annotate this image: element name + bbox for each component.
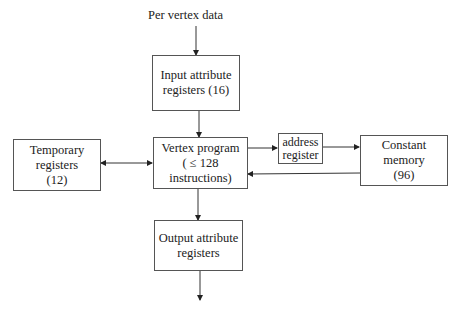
constant-memory-box: Constant memory (96): [360, 135, 448, 186]
address-register-box: address register: [278, 133, 323, 164]
box-line: registers (16): [160, 83, 231, 98]
box-line: (96): [382, 168, 426, 183]
box-line: memory: [382, 153, 426, 168]
box-line: Output attribute: [159, 231, 239, 246]
arrow-constant-to-vertex: [248, 173, 360, 174]
box-line: ( ≤ 128: [161, 156, 239, 171]
box-line: registers: [30, 158, 85, 173]
box-line: instructions): [161, 171, 239, 186]
box-line: Constant: [382, 138, 426, 153]
box-line: Vertex program: [161, 141, 239, 156]
box-line: address: [283, 136, 319, 149]
per-vertex-data-label: Per vertex data: [148, 8, 223, 23]
vertex-program-box: Vertex program ( ≤ 128 instructions): [153, 137, 248, 189]
box-line: Temporary: [30, 143, 85, 158]
box-line: registers: [159, 246, 239, 261]
output-attribute-registers-box: Output attribute registers: [154, 220, 243, 271]
input-attribute-registers-box: Input attribute registers (16): [152, 55, 240, 111]
box-line: register: [283, 149, 319, 162]
box-line: (12): [30, 173, 85, 188]
box-line: Input attribute: [160, 68, 231, 83]
temporary-registers-box: Temporary registers (12): [13, 139, 101, 191]
